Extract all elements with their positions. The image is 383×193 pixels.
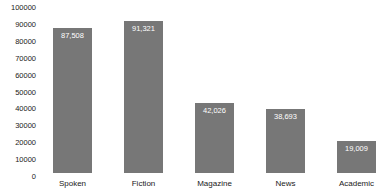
category-label-academic: Academic xyxy=(325,179,383,189)
category-label-spoken: Spoken xyxy=(41,179,104,189)
bar-fiction[interactable]: 91,321 xyxy=(124,21,163,173)
bar-magazine[interactable]: 42,026 xyxy=(195,103,234,173)
bar-academic[interactable]: 19,009 xyxy=(337,141,376,173)
category-label-magazine: Magazine xyxy=(183,179,246,189)
y-tick-label: 20000 xyxy=(0,139,36,147)
bar-group: 91,321 Fiction xyxy=(124,0,163,193)
bar-news[interactable]: 38,693 xyxy=(266,109,305,173)
y-tick-label: 60000 xyxy=(0,72,36,80)
bar-spoken[interactable]: 87,508 xyxy=(53,28,92,174)
y-axis: 100000 90000 80000 70000 60000 50000 400… xyxy=(0,0,40,193)
y-tick-label: 30000 xyxy=(0,122,36,130)
y-tick-label: 50000 xyxy=(0,89,36,97)
bar-group: 42,026 Magazine xyxy=(195,0,234,193)
bar-group: 19,009 Academic xyxy=(337,0,376,193)
bar-value-label: 19,009 xyxy=(337,144,376,153)
bar-value-label: 87,508 xyxy=(53,31,92,40)
bar-chart: 100000 90000 80000 70000 60000 50000 400… xyxy=(0,0,383,193)
category-label-news: News xyxy=(254,179,317,189)
y-tick-label: 80000 xyxy=(0,38,36,46)
bar-value-label: 42,026 xyxy=(195,106,234,115)
y-tick-label: 70000 xyxy=(0,55,36,63)
bar-group: 38,693 News xyxy=(266,0,305,193)
bar-group: 87,508 Spoken xyxy=(53,0,92,193)
y-tick-label: 40000 xyxy=(0,105,36,113)
y-tick-label: 10000 xyxy=(0,156,36,164)
y-tick-label: 0 xyxy=(0,173,36,181)
bar-value-label: 91,321 xyxy=(124,24,163,33)
y-tick-label: 90000 xyxy=(0,21,36,29)
category-label-fiction: Fiction xyxy=(112,179,175,189)
y-tick-label: 100000 xyxy=(0,4,36,12)
bar-value-label: 38,693 xyxy=(266,112,305,121)
plot-area: 87,508 Spoken 91,321 Fiction 42,026 Maga… xyxy=(40,0,383,193)
